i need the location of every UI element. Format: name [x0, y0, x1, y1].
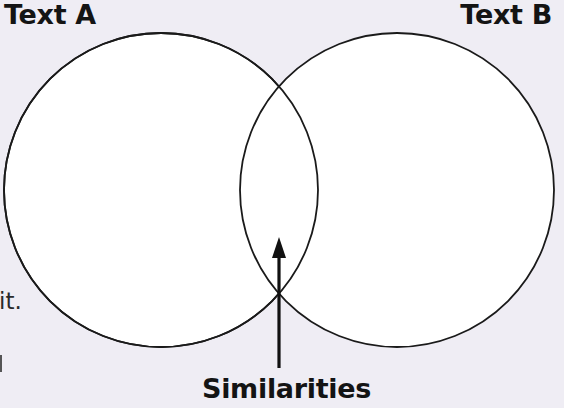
- circle-text-b: [240, 33, 554, 347]
- venn-diagram: Text A Text B Similarities it.: [0, 0, 564, 408]
- arrow-up-icon: [272, 237, 286, 368]
- cropped-margin-glyph: [0, 355, 2, 372]
- cropped-margin-text: it.: [0, 290, 22, 313]
- set-label-text-b: Text B: [460, 1, 552, 28]
- intersection-label-similarities: Similarities: [202, 375, 371, 402]
- venn-graphic: [0, 0, 564, 408]
- set-label-text-a: Text A: [4, 1, 96, 28]
